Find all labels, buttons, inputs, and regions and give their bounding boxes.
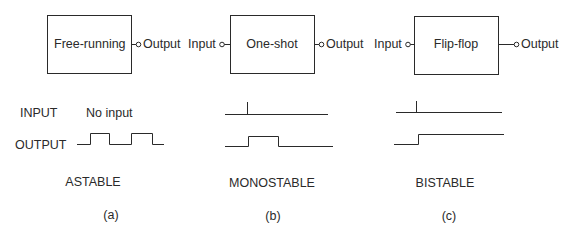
output-label-a: Output bbox=[143, 38, 181, 51]
monostable-output-waveform bbox=[225, 137, 333, 147]
mode-label-astable: ASTABLE bbox=[65, 176, 120, 189]
mode-label-bistable: BISTABLE bbox=[416, 177, 475, 190]
input-label-c: Input bbox=[374, 38, 402, 51]
output-label-c: Output bbox=[521, 38, 559, 51]
output-terminal-b bbox=[319, 42, 324, 47]
output-terminal-c bbox=[514, 42, 519, 47]
block-label-a: Free-running bbox=[54, 38, 126, 51]
no-input-note: No input bbox=[86, 107, 133, 120]
output-row-label: OUTPUT bbox=[15, 139, 66, 152]
input-label-b: Input bbox=[188, 38, 216, 51]
caption-b: (b) bbox=[265, 210, 280, 223]
astable-output-waveform bbox=[77, 134, 164, 145]
caption-a: (a) bbox=[103, 209, 118, 222]
caption-c: (c) bbox=[442, 210, 457, 223]
input-terminal-b bbox=[220, 42, 225, 47]
input-terminal-c bbox=[406, 42, 411, 47]
block-label-b: One-shot bbox=[246, 38, 297, 51]
output-label-b: Output bbox=[326, 38, 364, 51]
block-label-c: Flip-flop bbox=[434, 38, 478, 51]
bistable-output-waveform bbox=[394, 135, 504, 145]
input-row-label: INPUT bbox=[20, 107, 58, 120]
mode-label-monostable: MONOSTABLE bbox=[229, 177, 315, 190]
output-terminal-a bbox=[136, 42, 141, 47]
